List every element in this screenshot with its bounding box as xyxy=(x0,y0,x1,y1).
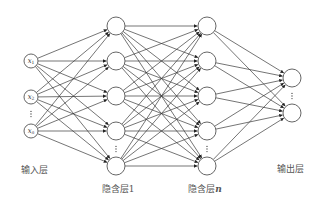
hidden-layer-n-label: 隐含层n xyxy=(188,182,222,195)
output-layer-label-text: 输出层 xyxy=(277,164,304,174)
connection-arrow xyxy=(35,33,110,125)
neuron-circle xyxy=(198,157,216,175)
neuron-subscript: 1 xyxy=(32,60,35,65)
vertical-ellipsis-icon xyxy=(30,111,31,118)
neuron-circle xyxy=(198,52,216,70)
connection-arrow xyxy=(215,31,284,73)
input-neuron-1: x1 xyxy=(24,54,38,68)
connection-arrow xyxy=(36,32,108,92)
connection-arrow xyxy=(215,118,284,161)
input-neuron-2: x2 xyxy=(24,90,38,104)
neuron-subscript: 2 xyxy=(32,96,35,101)
hidden1-neuron-4 xyxy=(107,122,125,140)
neuron-circle xyxy=(283,104,301,122)
connection-arrow xyxy=(216,80,283,94)
connection-arrow xyxy=(35,66,110,158)
hidden-layer-n-label-suffix: n xyxy=(215,184,222,194)
neuron-subscript: n xyxy=(32,130,35,135)
hidden-layer-n-label-prefix: 隐含层 xyxy=(188,184,215,194)
input-layer-label: 输入层 xyxy=(21,163,48,176)
neuron-circle xyxy=(198,87,216,105)
connection-arrow xyxy=(215,83,284,126)
hidden1-neuron-1 xyxy=(107,17,125,35)
connection-arrow xyxy=(36,65,108,125)
output-neuron-2 xyxy=(283,104,301,122)
input-layer-label-text: 输入层 xyxy=(21,165,48,175)
vertical-ellipsis-icon xyxy=(206,146,207,153)
hiddenN-neuron-2 xyxy=(198,52,216,70)
connection-edges xyxy=(35,26,285,166)
vertical-ellipsis-icon xyxy=(115,146,116,153)
neuron-circle xyxy=(107,122,125,140)
input-neuron-3: xn xyxy=(24,124,38,138)
network-graph: x1x2xn xyxy=(0,0,324,203)
hiddenN-neuron-1 xyxy=(198,17,216,35)
neuron-circle xyxy=(198,17,216,35)
hidden1-neuron-3 xyxy=(107,87,125,105)
connection-arrow xyxy=(37,30,107,59)
neuron-circle xyxy=(283,69,301,87)
hidden1-neuron-2 xyxy=(107,52,125,70)
connection-arrow xyxy=(37,134,107,163)
neural-network-diagram: x1x2xn 输入层 隐含层1 隐含层n 输出层 xyxy=(0,0,324,203)
hidden1-neuron-5 xyxy=(107,157,125,175)
hidden-layer-1-label-text: 隐含层1 xyxy=(102,184,135,194)
output-neuron-1 xyxy=(283,69,301,87)
hiddenN-neuron-3 xyxy=(198,87,216,105)
vertical-ellipsis-icon xyxy=(291,93,292,100)
neuron-circle xyxy=(107,52,125,70)
connection-arrow xyxy=(216,63,283,76)
hidden-layer-1-label: 隐含层1 xyxy=(102,182,135,195)
connection-arrow xyxy=(213,85,285,160)
output-layer-label: 输出层 xyxy=(277,162,304,175)
hiddenN-neuron-5 xyxy=(198,157,216,175)
neuron-circle xyxy=(107,17,125,35)
connection-arrow xyxy=(37,64,107,93)
hiddenN-neuron-4 xyxy=(198,122,216,140)
neuron-circle xyxy=(198,122,216,140)
neuron-circle xyxy=(107,157,125,175)
neuron-circle xyxy=(107,87,125,105)
